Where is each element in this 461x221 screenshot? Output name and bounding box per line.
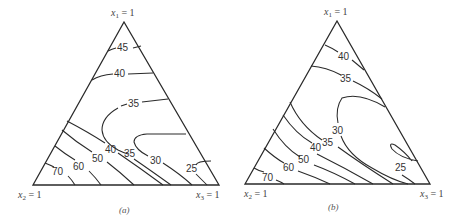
panel-a: 45 40 35 30 35 40 25 50 60 — [17, 7, 220, 215]
contour-50-b-right — [314, 165, 355, 184]
contour-25-b-loop — [391, 144, 418, 161]
contour-40-lower-a-left — [67, 121, 105, 143]
contour-50-a-right — [107, 162, 134, 185]
contour-label-35-lower-b: 35 — [322, 137, 334, 148]
vertex-label-x2-a: x2 = 1 — [17, 189, 42, 202]
contour-label-50-a: 50 — [92, 153, 104, 164]
contour-label-70-b: 70 — [262, 172, 274, 183]
contour-label-35-upper-b: 35 — [340, 73, 352, 84]
caption-b: (b) — [328, 202, 339, 212]
contour-60-a-right — [89, 171, 101, 185]
contour-35-lower-b-left — [290, 102, 322, 140]
contour-label-35-lower-a: 35 — [124, 148, 136, 159]
contour-35-b-left — [311, 66, 341, 75]
contour-label-30-a: 30 — [150, 155, 162, 166]
contour-30-b-bottom — [341, 136, 408, 184]
contour-40-upper-a-right — [128, 73, 153, 74]
vertex-label-x2-b: x2 = 1 — [243, 188, 268, 201]
vertex-label-x1-b: x1 = 1 — [323, 6, 348, 19]
vertex-label-x1-a: x1 = 1 — [110, 7, 135, 20]
contour-label-45-a: 45 — [117, 42, 129, 53]
contour-60-b-left — [264, 148, 284, 163]
contour-35-lower-b-right — [338, 147, 393, 184]
contour-60-a-left — [55, 146, 75, 160]
contour-30-b-top — [337, 96, 385, 123]
contour-label-40-lower-b: 40 — [310, 142, 322, 153]
contour-label-25-a: 25 — [186, 163, 198, 174]
contour-label-35-top-a: 35 — [128, 98, 140, 109]
contour-label-25-b: 25 — [395, 162, 407, 173]
contour-label-50-b: 50 — [298, 154, 310, 165]
contour-60-b-right — [298, 171, 330, 184]
contour-25-bottom-a — [196, 174, 207, 185]
contour-label-60-b: 60 — [283, 162, 295, 173]
contour-35-top-left-stub-a — [121, 104, 127, 106]
vertex-label-x3-b: x3 = 1 — [419, 188, 444, 201]
contour-50-a-left — [62, 130, 92, 152]
contour-label-70-a: 70 — [52, 166, 64, 177]
contour-30-loop-a — [134, 134, 186, 156]
figure-canvas: 45 40 35 30 35 40 25 50 60 — [0, 0, 461, 221]
contour-45-a-right — [133, 46, 141, 48]
contour-label-40-upper-a: 40 — [114, 68, 126, 79]
caption-a: (a) — [119, 205, 130, 215]
contour-40-b-left — [325, 45, 338, 52]
contour-label-40-upper-b: 40 — [338, 51, 350, 62]
contour-50-b-left — [273, 129, 300, 157]
contour-35-top-right-a — [142, 99, 168, 102]
ternary-triangle-b — [245, 21, 430, 184]
contour-label-40-lower-a: 40 — [105, 144, 117, 155]
contour-label-30-b: 30 — [332, 125, 344, 136]
contour-25-top-a — [196, 161, 211, 165]
contour-40-lower-b-left — [283, 115, 312, 143]
contour-label-60-a: 60 — [73, 161, 85, 172]
panel-b: 40 35 30 25 35 40 50 60 70 x1 — [243, 6, 444, 212]
vertex-label-x3-a: x3 = 1 — [195, 189, 220, 202]
contour-70-a-right — [68, 176, 75, 185]
